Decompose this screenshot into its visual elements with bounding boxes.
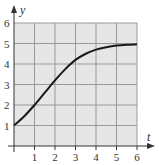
x-tick-label: 5 [114, 151, 120, 163]
x-tick-label: 3 [73, 151, 79, 163]
chart: 123456 123456 t y [0, 0, 159, 165]
y-tick-label: 6 [4, 17, 10, 29]
x-tick-label: 4 [93, 151, 99, 163]
x-tick-label: 2 [52, 151, 58, 163]
y-tick-label: 5 [4, 38, 10, 50]
x-tick-labels: 123456 [32, 146, 141, 163]
x-tick-label: 1 [32, 151, 38, 163]
y-axis-arrow-icon [11, 5, 17, 13]
y-tick-label: 1 [4, 120, 10, 132]
y-tick-label: 2 [4, 99, 10, 111]
x-tick-label: 6 [134, 151, 140, 163]
y-axis-label: y [19, 3, 26, 17]
y-tick-label: 3 [4, 79, 10, 91]
y-tick-labels: 123456 [4, 17, 10, 132]
y-tick-label: 4 [4, 58, 10, 70]
x-axis-label: t [147, 130, 151, 144]
